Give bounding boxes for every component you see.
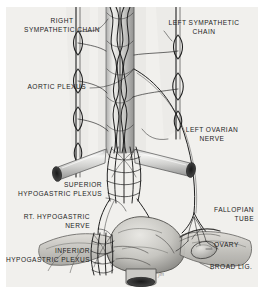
label-left-ovarian-nerve: LEFT OVARIAN NERVE bbox=[170, 126, 254, 143]
label-right-sympathetic-chain: RIGHT SYMPATHETIC CHAIN bbox=[14, 17, 110, 34]
label-broad-ligament: BROAD LIG. bbox=[210, 263, 258, 272]
label-ovary: OVARY bbox=[214, 241, 258, 250]
illustration-canvas: RIGHT SYMPATHETIC CHAIN LEFT SYMPATHETIC… bbox=[6, 7, 258, 287]
label-left-sympathetic-chain: LEFT SYMPATHETIC CHAIN bbox=[154, 19, 254, 36]
label-rt-hypogastric-nerve: RT. HYPOGASTRIC NERVE bbox=[6, 213, 90, 230]
artist-signature: jm bbox=[158, 271, 164, 277]
label-fallopian-tube: FALLOPIAN TUBE bbox=[192, 206, 254, 223]
cervix-vagina bbox=[126, 269, 156, 287]
label-inferior-hypogastric-plexus: INFERIOR HYPOGASTRIC PLEXUS bbox=[6, 247, 90, 264]
illustration-plate: RIGHT SYMPATHETIC CHAIN LEFT SYMPATHETIC… bbox=[0, 0, 264, 298]
label-aortic-plexus: AORTIC PLEXUS bbox=[8, 83, 86, 92]
label-superior-hypogastric-plexus: SUPERIOR HYPOGASTRIC PLEXUS bbox=[6, 181, 102, 198]
